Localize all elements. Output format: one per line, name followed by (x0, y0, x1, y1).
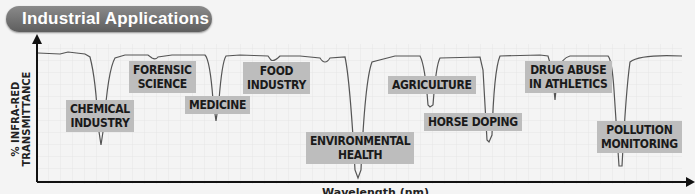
label-forensic-science: FORENSIC SCIENCE (129, 61, 196, 93)
label-medicine: MEDICINE (185, 96, 250, 114)
label-drug-abuse-athletics: DRUG ABUSE IN ATHLETICS (525, 61, 612, 93)
y-axis-arrow-icon (32, 34, 42, 44)
x-axis-arrow-icon (686, 177, 695, 187)
label-agriculture: AGRICULTURE (388, 76, 476, 94)
x-axis-label: Wavelength (nm) (322, 186, 429, 194)
label-environmental-health: ENVIRONMENTAL HEALTH (306, 132, 414, 164)
label-pollution-monitoring: POLLUTION MONITORING (597, 121, 682, 153)
label-chemical-industry: CHEMICAL INDUSTRY (66, 100, 134, 132)
label-food-industry: FOOD INDUSTRY (243, 62, 310, 94)
title-banner: Industrial Applications (6, 6, 212, 32)
y-axis-label: % INFRA-RED TRANSMITTANCE (10, 64, 32, 174)
label-horse-doping: HORSE DOPING (424, 113, 522, 131)
page-title: Industrial Applications (22, 9, 209, 29)
